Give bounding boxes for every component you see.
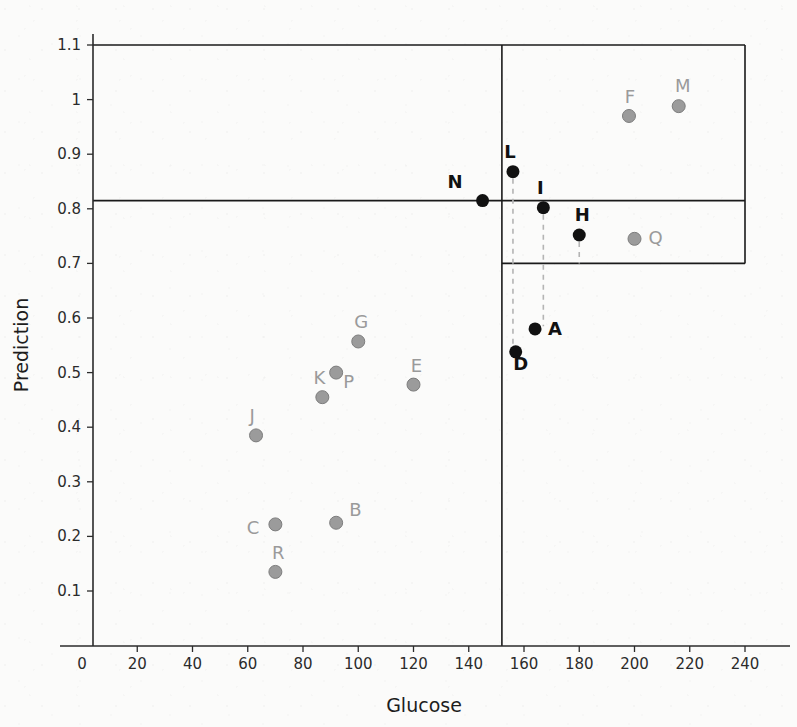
y-axis-ticks: 0.10.20.30.40.50.60.70.80.911.1: [57, 36, 93, 600]
point-marker: [250, 429, 263, 442]
y-axis-title: Prediction: [10, 298, 32, 392]
data-point-K: K: [313, 367, 328, 404]
point-marker: [330, 366, 343, 379]
y-tick-label: 1: [71, 91, 81, 109]
x-tick-label: 160: [510, 655, 539, 673]
point-label: A: [548, 318, 562, 339]
point-label: H: [575, 204, 590, 225]
x-tick-label: 20: [128, 655, 147, 673]
point-label: Q: [649, 227, 663, 248]
point-label: M: [675, 75, 691, 96]
x-tick-label: 80: [293, 655, 312, 673]
data-point-N: N: [447, 171, 489, 208]
data-point-P: P: [330, 366, 355, 392]
data-point-G: G: [352, 311, 368, 348]
point-label: K: [313, 367, 326, 388]
data-point-E: E: [407, 355, 422, 392]
point-label: F: [625, 86, 635, 107]
point-label: J: [248, 405, 254, 426]
data-point-B: B: [330, 499, 362, 530]
data-point-Q: Q: [628, 227, 663, 248]
point-label: D: [513, 353, 528, 374]
x-tick-label: 180: [565, 655, 594, 673]
data-point-F: F: [622, 86, 635, 123]
point-marker: [330, 516, 343, 529]
point-marker: [407, 378, 420, 391]
point-marker: [529, 322, 542, 335]
data-point-J: J: [248, 405, 262, 442]
threshold-region-lines: [93, 45, 745, 646]
y-tick-label: 0.4: [57, 418, 81, 436]
x-tick-label: 60: [238, 655, 257, 673]
x-tick-label: 140: [454, 655, 483, 673]
data-point-L: L: [504, 141, 519, 179]
point-label: R: [272, 542, 285, 563]
y-tick-label: 0.1: [57, 582, 81, 600]
point-label: L: [504, 141, 515, 162]
y-tick-label: 0.9: [57, 145, 81, 163]
point-label: G: [354, 311, 368, 332]
y-tick-label: 0.5: [57, 364, 81, 382]
y-tick-label: 0.7: [57, 254, 81, 272]
y-tick-label: 0.8: [57, 200, 81, 218]
data-point-H: H: [573, 204, 590, 242]
x-tick-label: 120: [399, 655, 428, 673]
point-marker: [476, 194, 489, 207]
x-axis-title: Glucose: [386, 694, 462, 716]
data-point-C: C: [247, 517, 282, 538]
data-point-I: I: [537, 177, 550, 215]
x-tick-label: 100: [344, 655, 373, 673]
point-label: C: [247, 517, 260, 538]
point-marker: [269, 518, 282, 531]
x-axis-ticks: 020406080100120140160180200220240: [77, 646, 759, 673]
chart-canvas: 020406080100120140160180200220240 0.10.2…: [0, 0, 797, 727]
data-point-D: D: [509, 345, 528, 374]
point-marker: [672, 100, 685, 113]
y-tick-label: 0.6: [57, 309, 81, 327]
data-point-M: M: [672, 75, 690, 113]
point-marker: [506, 165, 519, 178]
scatter-plot-figure: 020406080100120140160180200220240 0.10.2…: [0, 0, 797, 727]
point-label: I: [537, 177, 544, 198]
y-tick-label: 1.1: [57, 36, 81, 54]
y-tick-label: 0.3: [57, 473, 81, 491]
x-tick-label: 220: [675, 655, 704, 673]
y-tick-label: 0.2: [57, 527, 81, 545]
x-tick-label: 200: [620, 655, 649, 673]
data-point-A: A: [529, 318, 563, 339]
point-marker: [537, 201, 550, 214]
axes: [60, 34, 790, 646]
data-points: NLIHADFMQGEPKJCBR: [247, 75, 691, 578]
data-point-R: R: [269, 542, 285, 579]
x-tick-label: 240: [731, 655, 760, 673]
point-marker: [622, 109, 635, 122]
point-marker: [316, 391, 329, 404]
point-marker: [352, 335, 365, 348]
point-marker: [573, 229, 586, 242]
x-tick-label: 0: [77, 655, 87, 673]
point-label: B: [349, 499, 361, 520]
point-marker: [628, 232, 641, 245]
point-marker: [269, 565, 282, 578]
point-label: P: [343, 371, 354, 392]
point-label: E: [411, 355, 422, 376]
point-label: N: [447, 171, 462, 192]
x-tick-label: 40: [183, 655, 202, 673]
